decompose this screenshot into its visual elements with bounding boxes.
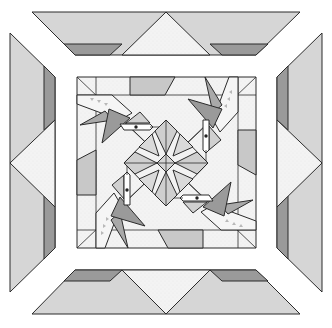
quilt-svg xyxy=(0,0,332,328)
border-panel-right xyxy=(277,33,322,292)
border-panel-bottom xyxy=(32,270,300,314)
bird-eye-bl xyxy=(125,188,128,191)
left-dark-strip-top xyxy=(44,66,55,130)
bird-eye-tl xyxy=(134,125,137,128)
bird-eye-br xyxy=(195,196,198,199)
bird-eye-tr xyxy=(204,134,207,137)
right-dark-strip-top xyxy=(277,66,288,130)
border-panel-top xyxy=(32,12,300,55)
border-panel-left xyxy=(10,33,55,292)
quilt-diagram xyxy=(0,0,332,328)
center-block xyxy=(77,77,256,248)
